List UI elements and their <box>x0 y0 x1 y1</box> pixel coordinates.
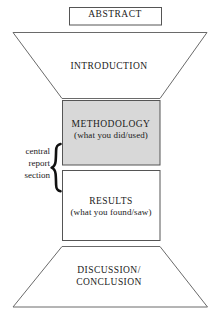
discussion-label-line1: DISCUSSION/ <box>44 265 174 276</box>
results-label-block: RESULTS (what you found/saw) <box>62 196 160 217</box>
methodology-label-block: METHODOLOGY (what you did/used) <box>62 119 160 140</box>
annotation-line-2: report <box>2 158 50 170</box>
discussion-label-line2: CONCLUSION <box>44 277 174 288</box>
central-section-brace <box>52 144 61 191</box>
annotation-line-1: central <box>2 146 50 158</box>
discussion-label-block: DISCUSSION/ CONCLUSION <box>44 265 174 287</box>
methodology-label: METHODOLOGY <box>62 119 160 130</box>
abstract-label: ABSTRACT <box>69 9 161 20</box>
report-structure-diagram: ABSTRACT INTRODUCTION METHODOLOGY (what … <box>0 0 218 319</box>
central-report-section-annotation: central report section <box>2 146 50 182</box>
results-sublabel: (what you found/saw) <box>62 207 160 217</box>
introduction-label: INTRODUCTION <box>44 61 174 72</box>
results-label: RESULTS <box>62 196 160 207</box>
annotation-line-3: section <box>2 170 50 182</box>
methodology-sublabel: (what you did/used) <box>62 130 160 140</box>
